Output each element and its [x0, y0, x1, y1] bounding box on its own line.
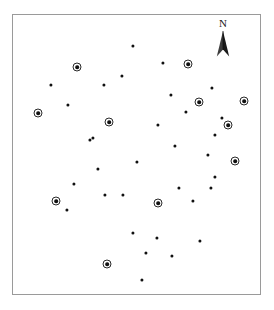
north-arrow: N [206, 18, 240, 58]
north-arrow-icon [206, 30, 240, 58]
north-arrow-label: N [206, 18, 240, 29]
point-distribution-map: N [0, 0, 274, 310]
